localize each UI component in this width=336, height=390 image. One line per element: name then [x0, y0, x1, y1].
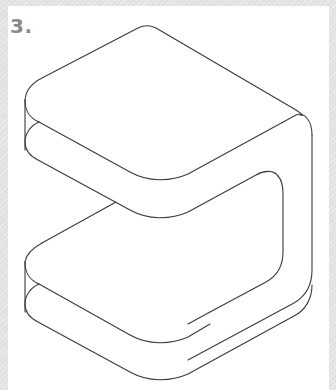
upper-slab-lower-edge [25, 122, 278, 218]
lower-slab-top-edges [25, 243, 42, 262]
upper-slab-front-top-edge [25, 100, 312, 180]
back-diagonal-edge [42, 202, 116, 243]
lower-slab-front-top-edge [25, 262, 210, 343]
lower-slab-bottom-edge [25, 284, 312, 380]
inner-c-bottom-edge [188, 312, 210, 324]
c-bracket-isometric-drawing [0, 0, 336, 390]
spine-inner-edge [210, 176, 283, 312]
top-face-back-edges [25, 26, 302, 116]
